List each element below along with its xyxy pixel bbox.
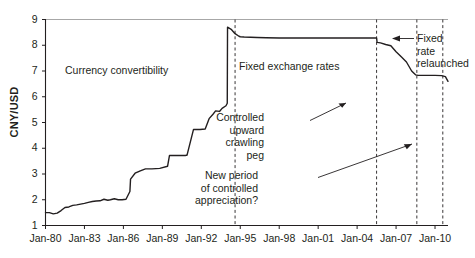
annotation-fixed-rate-relaunched: Fixedraterelaunched [417, 32, 469, 70]
annotation-line: peg [216, 149, 264, 162]
annotation-currency-convertibility: Currency convertibility [65, 64, 168, 77]
annotation-line: Currency convertibility [65, 64, 168, 77]
annotation-fixed-exchange-rates: Fixed exchange rates [239, 60, 339, 73]
leader-new-period [318, 144, 412, 178]
y-tick-label: 6 [22, 90, 38, 102]
y-axis-title: CNY/USD [8, 72, 20, 152]
vertical-marker-lines [235, 20, 443, 226]
y-tick-label: 2 [22, 193, 38, 205]
leader-controlled-peg [310, 103, 346, 121]
x-tick-label: Jan-10 [408, 232, 462, 244]
y-tick-label: 7 [22, 64, 38, 76]
annotation-controlled-upward-crawling-peg: Controlledupwardcrawlingpeg [216, 111, 264, 161]
y-tick-label: 8 [22, 38, 38, 50]
annotation-line: rate [417, 45, 469, 58]
y-tick-label: 5 [22, 116, 38, 128]
annotation-line: Fixed [417, 32, 469, 45]
y-tick-label: 1 [22, 219, 38, 231]
annotation-line: upward [216, 124, 264, 137]
annotation-new-period-of-controlled-appreciation: New periodof controlledappreciation? [195, 169, 258, 207]
y-tick-label: 9 [22, 13, 38, 25]
annotation-line: appreciation? [195, 194, 258, 207]
chart-figure: CNY/USD 123456789 Jan-80Jan-83Jan-86Jan-… [0, 0, 475, 258]
y-tick-label: 4 [22, 141, 38, 153]
annotation-line: Controlled [216, 111, 264, 124]
y-tick-label: 3 [22, 167, 38, 179]
annotation-line: relaunched [417, 57, 469, 70]
leader-fixed-rate-relaunched [392, 35, 414, 41]
annotation-line: Fixed exchange rates [239, 60, 339, 73]
annotation-line: crawling [216, 136, 264, 149]
annotation-line: New period [195, 169, 258, 182]
annotation-line: of controlled [195, 182, 258, 195]
